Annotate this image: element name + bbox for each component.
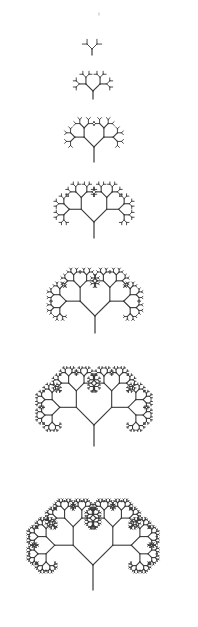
branch-segment <box>158 552 159 553</box>
branch-segment <box>101 192 107 198</box>
branch-segment <box>148 537 152 541</box>
branch-segment <box>121 506 125 510</box>
branch-segment <box>56 502 57 503</box>
branch-segment <box>28 561 29 562</box>
branch-segment <box>142 298 143 299</box>
branch-segment <box>93 507 94 508</box>
branch-segment <box>106 268 107 269</box>
branch-segment <box>65 316 66 317</box>
branch-segment <box>83 74 86 77</box>
branch-segment <box>124 315 125 316</box>
branch-segment <box>54 529 55 530</box>
branch-segment <box>134 572 135 573</box>
branch-segment <box>43 572 44 573</box>
branch-segment <box>69 383 77 391</box>
branch-segment <box>47 309 48 310</box>
branch-segment <box>32 547 33 548</box>
branch-segment <box>74 500 75 501</box>
branch-segment <box>104 383 112 391</box>
branch-segment <box>65 274 66 275</box>
branch-segment <box>116 499 117 500</box>
branch-segment <box>49 526 50 527</box>
branch-segment <box>101 268 102 269</box>
branch-segment <box>125 274 126 275</box>
branch-segment <box>85 520 86 521</box>
branch-segment <box>47 518 48 519</box>
branch-segment <box>92 44 97 49</box>
branch-segment <box>148 544 149 545</box>
branch-segment <box>49 508 50 509</box>
branch-segment <box>100 118 102 120</box>
branch-segment <box>85 512 86 513</box>
branch-segment <box>147 520 148 521</box>
branch-segment <box>34 554 38 558</box>
branch-segment <box>47 291 48 292</box>
branch-segment <box>76 81 79 84</box>
branch-segment <box>86 84 93 91</box>
branch-segment <box>114 268 115 269</box>
branch-segment <box>61 319 62 320</box>
branch-segment <box>131 537 140 546</box>
branch-segment <box>96 527 97 528</box>
branch-segment <box>46 519 47 520</box>
branch-segment <box>115 505 116 506</box>
branch-segment <box>116 145 118 147</box>
branch-segment <box>142 305 143 306</box>
branch-segment <box>52 407 60 415</box>
branch-segment <box>80 118 82 120</box>
fractal-tree-iteration-1 <box>82 39 101 55</box>
branch-segment <box>82 506 86 510</box>
branch-segment <box>76 192 82 198</box>
branch-segment <box>46 537 55 546</box>
branch-segment <box>145 517 146 518</box>
branch-segment <box>28 536 29 537</box>
branch-segment <box>157 554 158 555</box>
branch-segment <box>46 545 55 554</box>
branch-segment <box>142 310 143 311</box>
branch-segment <box>139 288 140 289</box>
branch-segment <box>76 499 77 500</box>
fractal-tree-iteration-5 <box>47 268 143 333</box>
branch-segment <box>136 527 137 528</box>
branch-segment <box>35 547 36 548</box>
branch-segment <box>29 546 30 547</box>
branch-segment <box>30 562 31 563</box>
branch-segment <box>114 500 115 501</box>
branch-segment <box>57 500 58 501</box>
branch-segment <box>134 529 135 530</box>
branch-segment <box>121 141 123 143</box>
branch-segment <box>95 502 96 503</box>
branch-segment <box>150 523 151 524</box>
branch-segment <box>107 81 110 84</box>
branch-segment <box>60 295 66 301</box>
branch-segment <box>41 517 42 518</box>
branch-segment <box>90 529 91 530</box>
branch-segment <box>71 504 72 505</box>
branch-segment <box>50 313 51 314</box>
branch-segment <box>121 500 122 501</box>
branch-segment <box>81 209 94 222</box>
branch-segment <box>81 192 87 198</box>
branch-segment <box>104 124 108 128</box>
branch-segment <box>53 504 54 505</box>
branch-segment <box>32 564 33 565</box>
branch-segment <box>28 553 29 554</box>
branch-segment <box>70 499 71 500</box>
branch-segment <box>100 74 103 77</box>
branch-segment <box>87 525 88 526</box>
branch-segment <box>61 506 65 510</box>
branch-segment <box>94 209 107 222</box>
branch-segment <box>97 509 98 510</box>
branch-segment <box>27 538 28 539</box>
branch-segment <box>100 520 101 521</box>
branch-segment <box>84 499 85 500</box>
branch-segment <box>115 508 116 509</box>
branch-segment <box>75 505 76 506</box>
branch-segment <box>138 510 139 511</box>
branch-segment <box>75 508 76 509</box>
branch-segment <box>73 518 82 527</box>
branch-segment <box>140 516 141 517</box>
branch-segment <box>113 518 122 527</box>
branch-segment <box>142 517 143 518</box>
branch-segment <box>158 556 159 557</box>
